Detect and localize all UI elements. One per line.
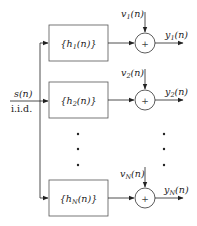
iid-label: i.i.d.: [11, 103, 32, 114]
plus-icon: +: [141, 194, 149, 204]
input-label: s(n): [14, 88, 33, 99]
noise-label-2: v2(n): [121, 67, 144, 80]
branch-1: {h1(n)} + v1(n) y1(n): [40, 8, 188, 61]
output-label-n: yN(n): [163, 184, 189, 197]
noise-label-n: vN(n): [120, 168, 145, 181]
plus-icon: +: [141, 96, 149, 106]
output-label-2: y2(n): [164, 86, 188, 99]
ellipsis-dots: [77, 133, 165, 166]
plus-icon: +: [141, 39, 149, 49]
noise-label-1: v1(n): [121, 8, 144, 21]
branch-n: {hN(n)} + vN(n) yN(n): [40, 167, 189, 216]
output-label-1: y1(n): [164, 29, 188, 42]
multichannel-system-diagram: s(n) i.i.d. {h1(n)} + v1(n) y1(n) {h2(n)…: [0, 0, 197, 226]
input-signal: s(n) i.i.d.: [10, 88, 48, 114]
branch-2: {h2(n)} + v2(n) y2(n): [49, 67, 188, 118]
